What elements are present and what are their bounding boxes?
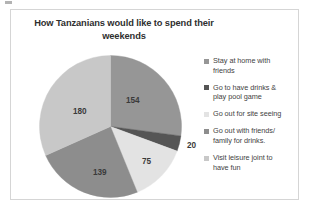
legend-item-stay-at-home[interactable]: Stay at home with friends — [204, 56, 300, 75]
legend-item-drinks-pool[interactable]: Go to have drinks & play pool game — [204, 83, 300, 102]
pie-data-label-0: 154 — [126, 96, 140, 105]
legend-label-4-line-1: Visit leisure joint to — [213, 153, 273, 162]
plot-area: 154 20 75 139 180 Stay at home with frie… — [11, 10, 300, 201]
scan-artifact — [5, 1, 12, 4]
legend-label-1-line-1: Go to have drinks & — [213, 83, 276, 92]
legend-item-site-seeing[interactable]: Go out for site seeing — [204, 109, 300, 119]
legend-label-4-line-2: have fun — [213, 163, 241, 172]
screenshot-root: How Tanzanians would like to spend their… — [0, 0, 309, 211]
legend-label-1-line-2: play pool game — [213, 92, 262, 101]
chart-frame: How Tanzanians would like to spend their… — [10, 9, 299, 200]
legend-swatch-icon-4 — [204, 156, 209, 161]
legend-label-4: Visit leisure joint to have fun — [213, 153, 273, 172]
legend-label-0-line-1: Stay at home with — [213, 56, 270, 65]
legend-swatch-icon-3 — [204, 129, 209, 134]
legend-swatch-icon-2 — [204, 112, 209, 117]
legend-label-1: Go to have drinks & play pool game — [213, 83, 276, 102]
legend-swatch-icon-1 — [204, 85, 209, 90]
pie-data-label-1: 20 — [187, 141, 196, 150]
legend-label-3: Go out with friends/ family for drinks. — [213, 126, 275, 145]
legend-label-3-line-2: family for drinks. — [213, 136, 265, 145]
pie-slices — [40, 56, 182, 198]
legend-swatch-icon-0 — [204, 59, 209, 64]
legend-item-leisure-joint[interactable]: Visit leisure joint to have fun — [204, 153, 300, 172]
legend-label-2: Go out for site seeing — [213, 109, 281, 119]
pie-data-label-3: 139 — [93, 168, 107, 177]
pie-slice-0[interactable] — [111, 56, 182, 136]
pie-data-label-4: 180 — [73, 107, 87, 116]
legend-label-0: Stay at home with friends — [213, 56, 270, 75]
legend-label-3-line-1: Go out with friends/ — [213, 126, 275, 135]
legend-label-0-line-2: friends — [213, 66, 235, 75]
legend-label-2-line-1: Go out for site seeing — [213, 109, 281, 118]
pie-data-label-2: 75 — [142, 157, 151, 166]
pie-chart — [38, 54, 183, 199]
chart-legend: Stay at home with friends Go to have dri… — [204, 56, 300, 180]
legend-item-friends-family-drinks[interactable]: Go out with friends/ family for drinks. — [204, 126, 300, 145]
